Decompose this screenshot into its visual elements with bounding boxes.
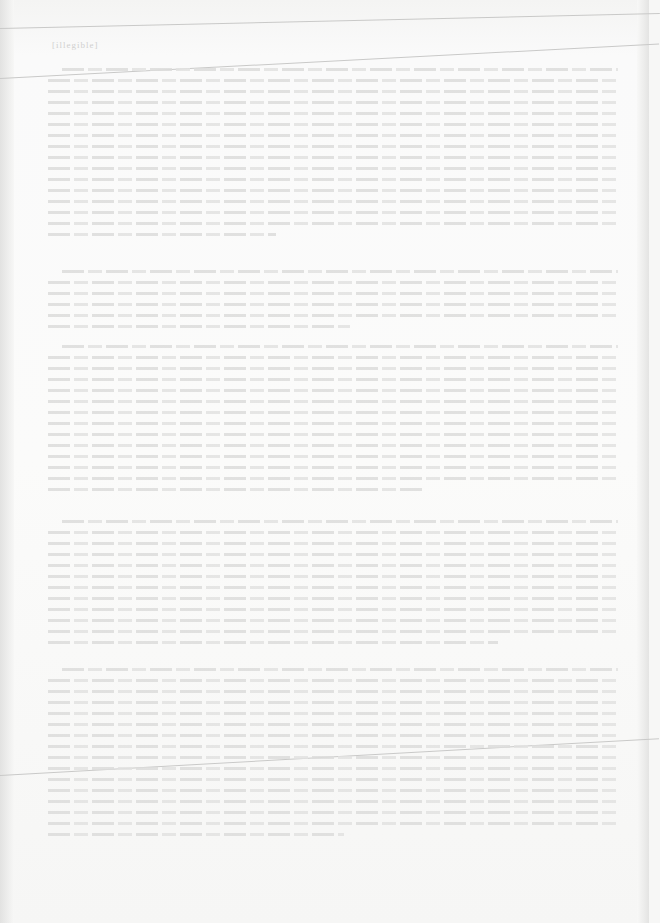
text-line: [48, 222, 618, 225]
text-line: [48, 400, 618, 403]
text-line: [48, 833, 344, 836]
text-line: [48, 444, 618, 447]
text-line: [48, 734, 618, 737]
text-line: [62, 668, 618, 671]
text-line: [48, 531, 618, 534]
text-line: [48, 325, 350, 328]
text-line: [48, 314, 618, 317]
text-line: [48, 281, 618, 284]
paragraph: [48, 270, 618, 336]
text-line: [48, 303, 618, 306]
text-line: [48, 79, 618, 82]
text-line: [48, 477, 618, 480]
text-line: [48, 455, 618, 458]
text-line: [48, 597, 618, 600]
text-line: [48, 112, 618, 115]
text-line: [48, 145, 618, 148]
text-line: [62, 68, 618, 71]
text-line: [48, 466, 618, 469]
text-line: [48, 233, 276, 236]
text-line: [48, 367, 618, 370]
text-line: [48, 356, 618, 359]
page-header: [illegible]: [52, 40, 99, 50]
text-line: [48, 189, 618, 192]
text-line: [48, 411, 618, 414]
paragraph: [48, 668, 618, 844]
text-line: [48, 723, 618, 726]
text-line: [48, 767, 618, 770]
text-line: [62, 270, 618, 273]
text-line: [48, 488, 424, 491]
text-line: [48, 378, 618, 381]
text-line: [48, 156, 618, 159]
text-line: [48, 167, 618, 170]
text-line: [48, 778, 618, 781]
text-line: [48, 200, 618, 203]
text-line: [48, 641, 498, 644]
text-line: [48, 745, 618, 748]
text-line: [48, 433, 618, 436]
scan-edge-left: [0, 0, 14, 923]
text-line: [48, 630, 618, 633]
text-line: [48, 389, 618, 392]
text-line: [48, 101, 618, 104]
text-line: [48, 789, 618, 792]
text-line: [48, 811, 618, 814]
text-line: [62, 345, 618, 348]
text-line: [48, 90, 618, 93]
text-line: [48, 800, 618, 803]
paragraph: [48, 345, 618, 499]
paragraph: [48, 68, 618, 244]
text-line: [48, 178, 618, 181]
text-line: [48, 619, 618, 622]
text-line: [48, 542, 618, 545]
text-line: [48, 211, 618, 214]
text-line: [48, 123, 618, 126]
fold-line-top: [0, 13, 660, 29]
text-line: [48, 134, 618, 137]
text-line: [48, 756, 618, 759]
text-line: [48, 679, 618, 682]
text-line: [48, 422, 618, 425]
text-line: [48, 712, 618, 715]
text-line: [48, 564, 618, 567]
text-line: [48, 553, 618, 556]
text-line: [48, 701, 618, 704]
text-line: [62, 520, 618, 523]
text-line: [48, 575, 618, 578]
text-line: [48, 822, 618, 825]
text-line: [48, 690, 618, 693]
paragraph: [48, 520, 618, 652]
text-line: [48, 608, 618, 611]
text-line: [48, 586, 618, 589]
text-line: [48, 292, 618, 295]
scan-edge-right: [637, 0, 649, 923]
